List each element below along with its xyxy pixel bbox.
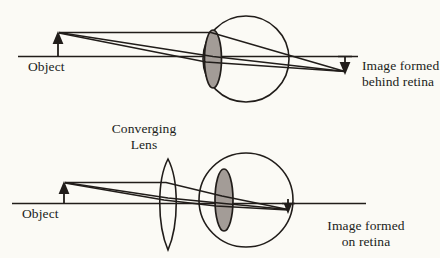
label-converging-line2: Lens: [131, 137, 158, 152]
optics-diagram: Object Image formedbehind retina Converg…: [0, 0, 440, 258]
label-converging-line1: Converging: [112, 121, 177, 136]
label-image-top-line2: behind retina: [362, 74, 434, 89]
label-object-bottom: Object: [22, 206, 59, 222]
eyeball-circle-bottom: [199, 153, 293, 247]
label-image-on-retina: Image formedon retina: [306, 218, 426, 249]
label-object-top: Object: [28, 59, 65, 75]
label-converging-lens: ConvergingLens: [96, 121, 192, 152]
label-image-bottom-line2: on retina: [342, 234, 391, 249]
eye-lens-ellipse-top: [205, 30, 222, 88]
object-arrow-top: [53, 31, 64, 57]
panel-uncorrected-eye: [18, 16, 358, 102]
object-arrow-bottom: [59, 181, 70, 204]
label-image-top-line1: Image formed: [362, 58, 439, 73]
eye-lens-ellipse-bottom: [215, 169, 233, 231]
image-arrow-top: [340, 57, 351, 75]
label-image-bottom-line1: Image formed: [327, 218, 404, 233]
label-image-behind-retina: Image formedbehind retina: [362, 58, 439, 89]
ray-parallel-top: [59, 33, 345, 72]
converging-lens: [160, 159, 177, 250]
ray-oblique-top: [59, 33, 345, 72]
